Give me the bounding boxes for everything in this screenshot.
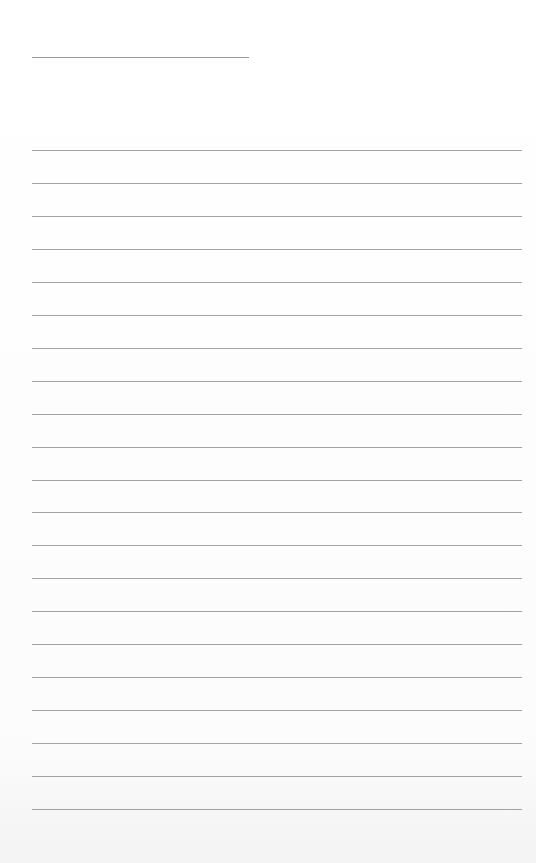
ruled-line [32,677,522,678]
ruled-line [32,414,522,415]
ruled-line [32,282,522,283]
ruled-line [32,348,522,349]
lined-paper-page [0,0,536,863]
ruled-line [32,249,522,250]
ruled-line [32,611,522,612]
ruled-line [32,578,522,579]
ruled-line [32,710,522,711]
ruled-line [32,644,522,645]
ruled-line [32,743,522,744]
ruled-line [32,512,522,513]
ruled-line [32,150,522,151]
ruled-line [32,809,522,810]
ruled-line [32,480,522,481]
ruled-line [32,183,522,184]
ruled-line [32,315,522,316]
ruled-line [32,776,522,777]
ruled-line [32,447,522,448]
ruled-line [32,545,522,546]
title-line [32,57,249,58]
ruled-line [32,216,522,217]
ruled-line [32,381,522,382]
